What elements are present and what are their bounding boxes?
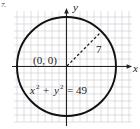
equation-y-base: y <box>53 84 59 96</box>
x-axis-label: x <box>132 62 138 74</box>
radius-value-label: 7 <box>96 43 102 55</box>
center-point-label: (0, 0) <box>33 54 57 67</box>
equation-y-exponent: 2 <box>60 83 64 91</box>
y-axis-label: y <box>72 1 78 13</box>
equation-x-exponent: 2 <box>36 83 40 91</box>
circle-graph-figure: 7. <box>0 0 140 129</box>
equation-right-side: = 49 <box>67 84 87 96</box>
coordinate-plane-graph: y x (0, 0) 7 x 2 + y 2 = 49 <box>0 0 140 129</box>
equation-plus-sign: + <box>43 84 49 96</box>
equation-x-base: x <box>29 84 35 96</box>
